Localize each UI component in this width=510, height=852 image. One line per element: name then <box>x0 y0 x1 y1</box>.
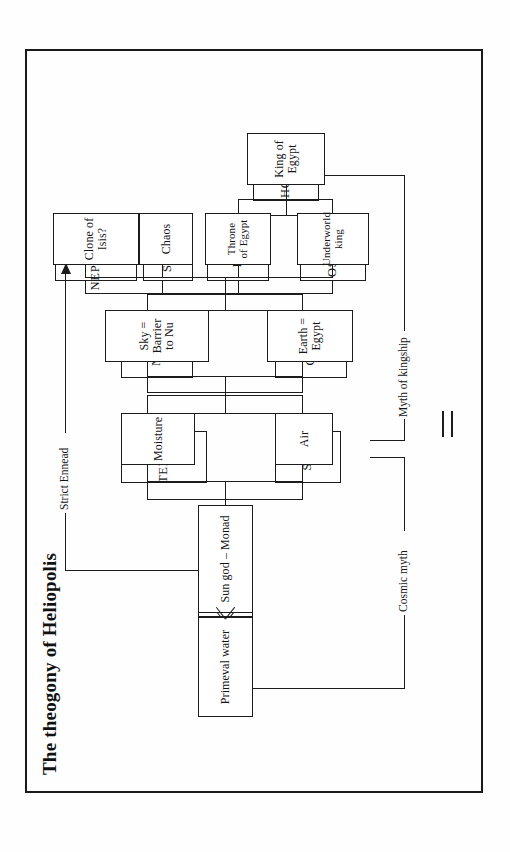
connector-to-air <box>302 464 303 482</box>
connector-gloss-children-trunk <box>225 277 226 295</box>
connector-underworld-out <box>332 199 333 213</box>
connector-to-sky-earth-spine <box>225 376 226 396</box>
connector-moisture-out <box>147 395 148 413</box>
bracket-kingship-line-right <box>404 175 405 331</box>
connector-throne-out <box>238 199 239 213</box>
connector-sungod-trunk <box>225 481 226 505</box>
connector-to-osiris <box>332 280 333 294</box>
connector-to-earth <box>302 361 303 377</box>
bracket-cosmic-line-left <box>404 615 405 689</box>
connector-to-geb <box>302 377 303 393</box>
bracket-kingship-line-left <box>404 419 405 441</box>
label-cosmic-myth: Cosmic myth <box>397 550 409 612</box>
connector-to-chaos <box>162 264 163 278</box>
node-sky-barrier-to-nu: Sky = Barrier to Nu <box>105 310 209 362</box>
node-air: Air <box>275 413 333 465</box>
connector-to-king-of-egypt <box>286 184 287 200</box>
connector-sky-out <box>147 294 148 310</box>
connector-to-throne <box>238 264 239 278</box>
node-underworld-king: Underworld king <box>297 213 369 265</box>
connector-gloss-children-spine <box>85 277 333 278</box>
node-clone-of-isis: Clone of Isis? <box>53 213 139 265</box>
node-sun-god-monad: Sun god – Monad <box>198 505 253 613</box>
connector-to-underworld-king <box>332 264 333 278</box>
bracket-kingship-left <box>370 440 405 441</box>
connector-to-clone-of-isis <box>85 264 86 278</box>
bracket-cosmic-left <box>253 688 405 689</box>
connector-air-out <box>302 395 303 413</box>
bracket-kingship-right <box>319 175 405 176</box>
node-throne-of-egypt: Throne of Egypt <box>205 213 271 265</box>
connector-to-moisture <box>147 464 148 482</box>
node-chaos: Chaos <box>139 213 193 265</box>
bracket-cosmic-right <box>370 457 405 458</box>
node-earth-egypt: Earth = Egypt <box>267 310 353 362</box>
connector-sungod-spine <box>147 481 303 482</box>
bracket-cosmic-line-right <box>404 457 405 531</box>
connector-sky-earth-spine <box>147 376 303 377</box>
node-primeval-water: Primeval water <box>198 617 253 717</box>
connector-to-sky <box>147 361 148 377</box>
connector-to-horus <box>286 200 287 216</box>
node-moisture: Moisture <box>121 413 195 465</box>
label-myth-of-kingship: Myth of kingship <box>397 337 409 417</box>
connector-earth-out <box>302 294 303 310</box>
connector-to-shu <box>302 482 303 500</box>
node-king-of-egypt: King of Egypt <box>247 133 325 185</box>
equals-sign <box>442 411 455 437</box>
gloss-panel: Primeval water Sun god – Monad Moisture … <box>25 50 251 793</box>
